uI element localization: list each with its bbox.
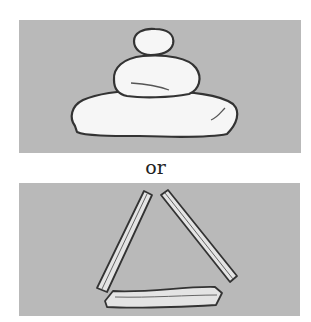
or-separator-label: or	[0, 155, 311, 179]
stick-triangle-panel	[19, 183, 300, 316]
stone-cairn-icon	[19, 20, 301, 153]
stick-triangle-icon	[19, 183, 300, 316]
stone-cairn-panel	[19, 20, 301, 153]
